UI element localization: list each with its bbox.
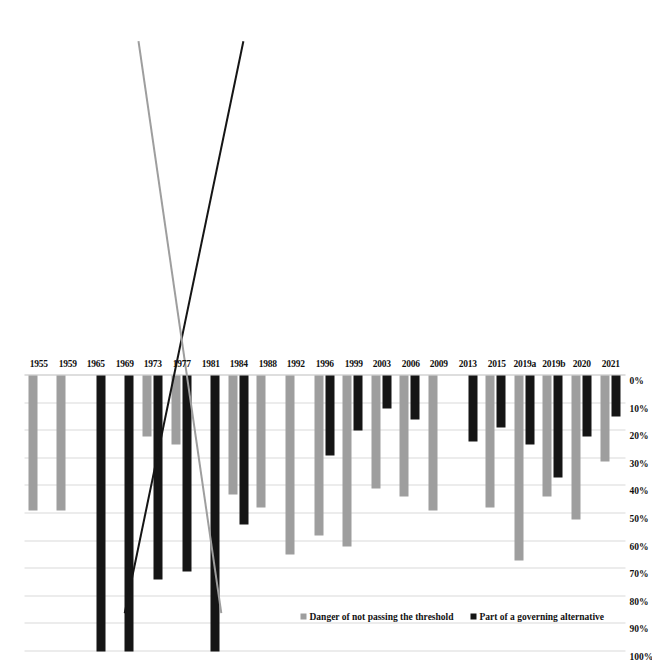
bar-2006-series0 [410,375,419,419]
year-label-2019a: 2019a [510,349,539,378]
legend-label: Danger of not passing the threshold [309,611,453,621]
year-label-2020: 2020 [567,349,596,378]
legend-entry-governing-alternative: Part of a governing alternative [470,611,604,621]
gray-square-icon [300,613,306,619]
bar-1999-series1 [342,375,351,546]
bar-2019b-series1 [542,375,551,496]
bar-group-2021 [596,0,624,651]
year-label-2021: 2021 [596,349,625,378]
bar-group-2003 [367,0,395,651]
bar-2020-series0 [582,375,591,436]
legend-label: Part of a governing alternative [479,611,604,621]
year-label-2013: 2013 [453,349,482,378]
year-label-2019b: 2019b [539,349,568,378]
bar-2013-series0 [468,375,477,441]
bar-group-2015 [482,0,510,651]
bar-2015-series1 [485,375,494,507]
bar-2019a-series0 [525,375,534,444]
year-label-2006: 2006 [396,349,425,378]
bar-1999-series0 [353,375,362,430]
bar-group-2020 [567,0,595,651]
year-label-2015: 2015 [482,349,511,378]
bar-2015-series0 [496,375,505,427]
bar-2003-series1 [371,375,380,488]
bar-group-2019a [510,0,538,651]
black-square-icon [470,613,476,619]
bar-group-2006 [396,0,424,651]
bar-2003-series0 [382,375,391,408]
year-label-1999: 1999 [339,349,368,378]
bar-2021-series0 [611,375,620,416]
bar-group-1999 [339,0,367,651]
bar-group-2013 [453,0,481,651]
year-label-2009: 2009 [424,349,453,378]
bar-group-2009 [424,0,452,651]
bar-2009-series1 [428,375,437,510]
legend-entry-threshold-danger: Danger of not passing the threshold [300,611,453,621]
bar-2006-series1 [399,375,408,496]
bar-2019b-series0 [553,375,562,477]
bar-group-2019b [539,0,567,651]
year-label-2003: 2003 [367,349,396,378]
bar-2020-series1 [571,375,580,519]
bar-2019a-series1 [514,375,523,560]
bar-2021-series1 [600,375,609,461]
